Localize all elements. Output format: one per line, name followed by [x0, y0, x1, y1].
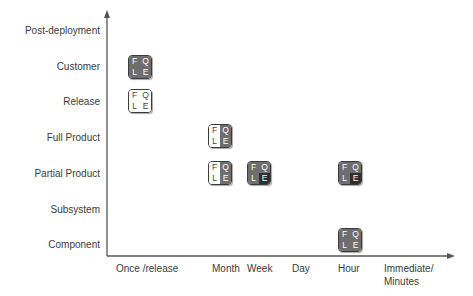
y-label-post-deployment: Post-deployment: [25, 25, 100, 36]
quadrant-l: L: [209, 136, 220, 147]
quadrant-e: E: [220, 173, 231, 184]
quadrant-e: E: [140, 67, 151, 78]
y-label-customer: Customer: [57, 61, 100, 72]
quadrant-l: L: [339, 240, 350, 251]
quadrant-e: E: [350, 240, 361, 251]
quadrant-f: F: [209, 162, 220, 173]
x-label-immediate-line1: Immediate/: [384, 262, 433, 275]
quadrant-l: L: [209, 173, 220, 184]
quadrant-l: L: [129, 67, 140, 78]
quadrant-l: L: [129, 101, 140, 112]
x-label-week: Week: [247, 262, 272, 275]
marker-month-full-product: F Q L E: [208, 124, 232, 148]
y-axis-arrow-icon: [104, 10, 110, 18]
marker-week-partial-product: F Q L E: [247, 161, 271, 185]
x-axis-arrow-icon: [447, 253, 455, 259]
y-label-release: Release: [63, 96, 100, 107]
marker-once-release: F Q L E: [128, 89, 152, 113]
quadrant-e: E: [350, 173, 361, 184]
quadrant-f: F: [129, 56, 140, 67]
x-label-immediate-line2: Minutes: [384, 275, 433, 288]
x-label-once-release: Once /release: [116, 262, 178, 275]
quadrant-q: Q: [350, 229, 361, 240]
x-label-hour: Hour: [338, 262, 360, 275]
marker-hour-partial-product: F Q L E: [338, 161, 362, 185]
marker-month-partial-product: F Q L E: [208, 161, 232, 185]
quadrant-q: Q: [350, 162, 361, 173]
chart-axes: [0, 0, 473, 296]
quadrant-f: F: [129, 90, 140, 101]
quadrant-q: Q: [220, 162, 231, 173]
quadrant-f: F: [339, 229, 350, 240]
quadrant-f: F: [248, 162, 259, 173]
quadrant-q: Q: [140, 56, 151, 67]
quadrant-e: E: [220, 136, 231, 147]
quadrant-e: E: [259, 173, 270, 184]
quadrant-q: Q: [220, 125, 231, 136]
quadrant-e: E: [140, 101, 151, 112]
x-label-immediate-minutes: Immediate/ Minutes: [384, 262, 433, 288]
quadrant-f: F: [209, 125, 220, 136]
quadrant-l: L: [248, 173, 259, 184]
marker-hour-component: F Q L E: [338, 228, 362, 252]
y-label-subsystem: Subsystem: [51, 204, 100, 215]
quadrant-l: L: [339, 173, 350, 184]
x-label-month: Month: [212, 262, 240, 275]
x-label-day: Day: [292, 262, 310, 275]
y-label-partial-product: Partial Product: [34, 168, 100, 179]
quadrant-f: F: [339, 162, 350, 173]
quadrant-q: Q: [140, 90, 151, 101]
marker-once-customer: F Q L E: [128, 55, 152, 79]
y-label-component: Component: [48, 239, 100, 250]
quadrant-q: Q: [259, 162, 270, 173]
y-label-full-product: Full Product: [47, 132, 100, 143]
